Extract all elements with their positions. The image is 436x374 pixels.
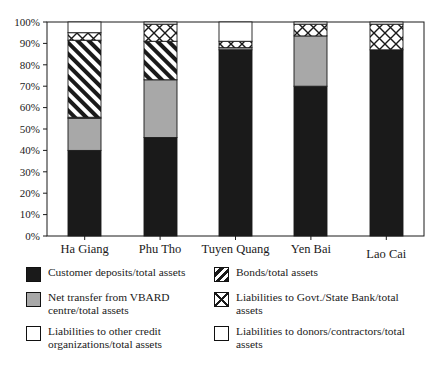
stacked-bar-chart: 0%10%20%30%40%50%60%70%80%90%100%Ha Gian… bbox=[0, 0, 436, 262]
x-axis-category-label: Tuyen Quang bbox=[202, 242, 271, 256]
legend-label: Net transfer from VBARD centre/total ass… bbox=[48, 291, 214, 316]
bar-segment bbox=[68, 150, 101, 236]
bar-group bbox=[294, 22, 327, 236]
bar-segment bbox=[144, 138, 177, 236]
y-axis-tick-label: 30% bbox=[20, 166, 40, 178]
legend-swatch-diagonal-stripes-icon bbox=[214, 267, 229, 282]
legend-row: Customer deposits/total assets Bonds/tot… bbox=[0, 266, 436, 282]
bar-segment bbox=[370, 50, 403, 236]
bar-segment bbox=[294, 36, 327, 86]
x-axis-category-label: Lao Cai bbox=[366, 247, 406, 261]
y-axis-tick-label: 60% bbox=[20, 101, 40, 113]
legend-label: Liabilities to other credit organization… bbox=[48, 325, 214, 350]
y-axis-tick-label: 20% bbox=[20, 187, 40, 199]
legend-label: Liabilities to donors/contractors/total … bbox=[236, 325, 418, 350]
x-axis-category-label: Yen Bai bbox=[291, 242, 332, 256]
y-axis-tick-label: 0% bbox=[25, 230, 40, 242]
legend-item-liabilities-other-credit-orgs: Liabilities to other credit organization… bbox=[0, 325, 214, 350]
bar-group bbox=[219, 22, 252, 236]
bar-segment bbox=[294, 24, 327, 36]
chart-legend: Customer deposits/total assets Bonds/tot… bbox=[0, 262, 436, 374]
y-axis-tick-label: 50% bbox=[20, 123, 40, 135]
bar-segment bbox=[294, 86, 327, 236]
y-axis-tick-label: 100% bbox=[14, 16, 40, 28]
bar-segment bbox=[370, 22, 403, 24]
bar-segment bbox=[144, 41, 177, 80]
legend-item-customer-deposits: Customer deposits/total assets bbox=[0, 266, 214, 282]
bar-segment bbox=[144, 22, 177, 24]
legend-row: Liabilities to other credit organization… bbox=[0, 325, 436, 350]
y-axis-tick-label: 90% bbox=[20, 37, 40, 49]
bar-group bbox=[68, 22, 101, 236]
legend-swatch-open-white-icon bbox=[214, 326, 229, 341]
legend-swatch-solid-black-icon bbox=[26, 267, 41, 282]
plot-area: 0%10%20%30%40%50%60%70%80%90%100%Ha Gian… bbox=[14, 16, 424, 261]
bar-segment bbox=[219, 50, 252, 236]
y-axis-tick-label: 40% bbox=[20, 144, 40, 156]
bar-group bbox=[370, 22, 403, 236]
bar-segment bbox=[68, 118, 101, 150]
legend-swatch-cross-hatch-icon bbox=[214, 292, 229, 307]
legend-item-liabilities-donors-contractors: Liabilities to donors/contractors/total … bbox=[214, 325, 436, 350]
x-axis-category-label: Phu Tho bbox=[139, 242, 182, 256]
legend-row: Net transfer from VBARD centre/total ass… bbox=[0, 291, 436, 316]
bar-segment bbox=[370, 24, 403, 50]
legend-swatch-open-white-icon bbox=[26, 326, 41, 341]
y-axis-tick-label: 80% bbox=[20, 59, 40, 71]
bar-segment bbox=[68, 22, 101, 33]
legend-item-net-transfer-vbard: Net transfer from VBARD centre/total ass… bbox=[0, 291, 214, 316]
x-axis-category-label: Ha Giang bbox=[61, 242, 110, 256]
bar-group bbox=[144, 22, 177, 236]
y-axis-tick-label: 70% bbox=[20, 80, 40, 92]
legend-item-bonds: Bonds/total assets bbox=[214, 266, 436, 282]
bar-segment bbox=[294, 22, 327, 24]
legend-swatch-solid-gray-icon bbox=[26, 292, 41, 307]
bar-segment bbox=[68, 40, 101, 117]
chart-figure: 0%10%20%30%40%50%60%70%80%90%100%Ha Gian… bbox=[0, 0, 436, 374]
bar-segment bbox=[219, 22, 252, 41]
bar-segment bbox=[144, 80, 177, 138]
y-axis-tick-label: 10% bbox=[20, 208, 40, 220]
legend-label: Liabilities to Govt./State Bank/total as… bbox=[236, 291, 418, 316]
legend-label: Customer deposits/total assets bbox=[48, 266, 185, 279]
bar-segment bbox=[144, 24, 177, 41]
bar-segment bbox=[68, 33, 101, 40]
legend-item-liabilities-govt-state-bank: Liabilities to Govt./State Bank/total as… bbox=[214, 291, 436, 316]
bar-segment bbox=[219, 41, 252, 47]
legend-label: Bonds/total assets bbox=[236, 266, 318, 279]
